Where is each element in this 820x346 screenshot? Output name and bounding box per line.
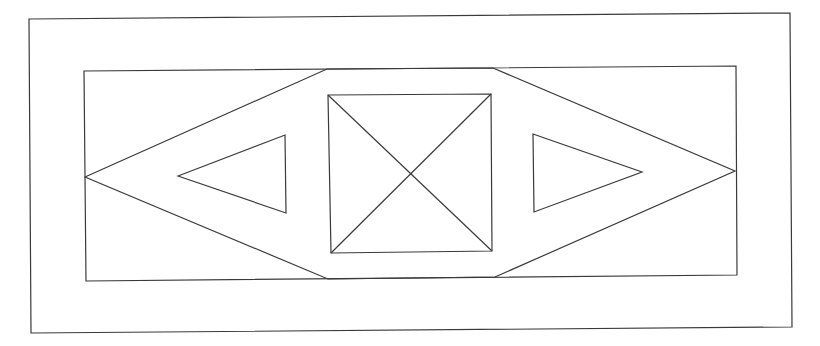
right-triangle (533, 134, 642, 212)
geometric-line-drawing (0, 0, 820, 346)
left-triangle (178, 135, 286, 213)
square-diagonal-1 (328, 95, 492, 251)
square-diagonal-2 (331, 94, 491, 253)
